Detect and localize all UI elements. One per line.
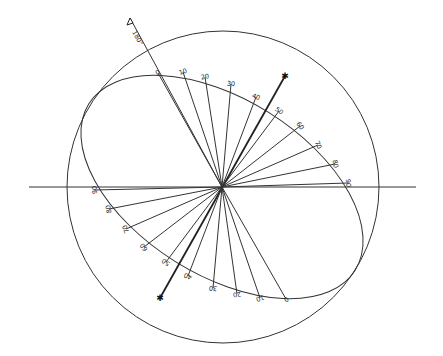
arrowhead-icon: [127, 18, 133, 25]
upper-angle-label: 0: [154, 68, 162, 77]
lower-angle-label: 60: [138, 241, 149, 252]
upper-angle-label: 80: [330, 159, 339, 169]
arrow-axis-label: 180°: [130, 29, 144, 47]
lower-angle-label: 80: [104, 204, 113, 214]
upper-angle-ray: [183, 72, 222, 187]
polarization-diagram: 180°✱✱ 010203040506070809001020304050607…: [0, 0, 443, 356]
lower-angle-ray: [222, 187, 260, 298]
upper-angle-label: 30: [227, 79, 236, 88]
lower-angle-label: 10: [255, 293, 265, 303]
upper-angle-ray: [222, 145, 318, 187]
lower-angle-ray: [166, 187, 222, 262]
lower-angle-ray: [222, 187, 286, 299]
asterisk-marker-icon: ✱: [281, 71, 289, 81]
upper-angle-label: 40: [251, 92, 262, 102]
lower-angle-ray: [109, 187, 222, 209]
lower-angle-ray: [126, 187, 222, 229]
upper-angle-ray: [158, 73, 222, 187]
lower-angle-label: 40: [183, 271, 194, 281]
upper-angle-label: 50: [273, 105, 284, 116]
lower-angle-ray: [222, 187, 237, 294]
radial-lines: [95, 72, 348, 299]
upper-angle-ray: [222, 84, 231, 187]
upper-angle-label: 20: [200, 72, 209, 81]
lower-angle-label: 90: [91, 186, 99, 194]
upper-angle-label: 90: [344, 179, 352, 188]
upper-angle-label: 10: [178, 67, 188, 77]
lower-angle-label: 0: [282, 295, 290, 304]
asterisk-marker-icon: ✱: [156, 293, 164, 303]
lower-angle-label: 30: [209, 284, 218, 293]
upper-angle-label: 60: [294, 120, 305, 131]
lower-angle-label: 20: [232, 290, 241, 299]
